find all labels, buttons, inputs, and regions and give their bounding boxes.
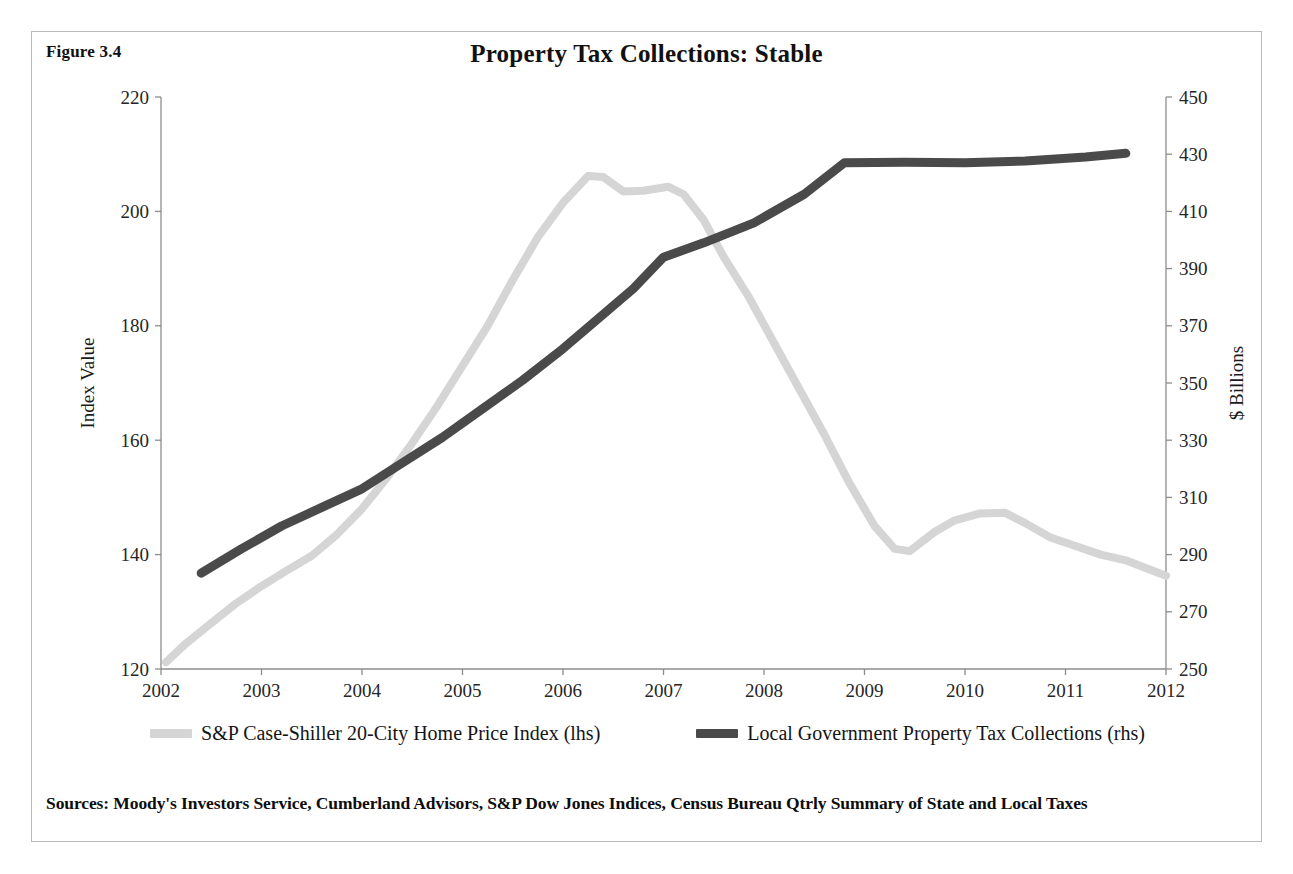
svg-text:2007: 2007 xyxy=(645,680,683,701)
svg-text:$ Billions: $ Billions xyxy=(1226,346,1247,420)
svg-text:310: 310 xyxy=(1179,487,1208,508)
svg-text:2004: 2004 xyxy=(343,680,382,701)
svg-text:2011: 2011 xyxy=(1047,680,1084,701)
chart-legend: S&P Case-Shiller 20-City Home Price Inde… xyxy=(32,722,1263,745)
svg-text:2010: 2010 xyxy=(946,680,984,701)
series-line-case-shiller xyxy=(166,176,1166,662)
legend-label-property-tax: Local Government Property Tax Collection… xyxy=(747,722,1145,745)
axis-titles: Index Value$ Billions xyxy=(77,338,1247,429)
svg-text:450: 450 xyxy=(1179,87,1208,108)
axis-lines xyxy=(161,97,1166,669)
svg-text:200: 200 xyxy=(121,201,150,222)
svg-text:120: 120 xyxy=(121,659,150,680)
svg-text:350: 350 xyxy=(1179,373,1208,394)
svg-text:Index Value: Index Value xyxy=(77,338,98,429)
svg-text:140: 140 xyxy=(121,544,150,565)
line-chart-svg: 120140160180200220 250270290310330350370… xyxy=(32,32,1263,732)
svg-text:2008: 2008 xyxy=(745,680,783,701)
left-axis-ticks: 120140160180200220 xyxy=(121,87,162,680)
svg-text:2003: 2003 xyxy=(243,680,281,701)
legend-item[interactable]: S&P Case-Shiller 20-City Home Price Inde… xyxy=(150,722,600,745)
bottom-axis-ticks: 2002200320042005200620072008200920102011… xyxy=(142,669,1185,701)
svg-text:180: 180 xyxy=(121,315,150,336)
svg-text:160: 160 xyxy=(121,430,150,451)
svg-text:290: 290 xyxy=(1179,544,1208,565)
sources-note: Sources: Moody's Investors Service, Cumb… xyxy=(46,793,1249,814)
svg-text:220: 220 xyxy=(121,87,150,108)
legend-item[interactable]: Local Government Property Tax Collection… xyxy=(696,722,1145,745)
svg-text:2005: 2005 xyxy=(444,680,482,701)
legend-swatch-case-shiller xyxy=(150,729,192,738)
svg-text:330: 330 xyxy=(1179,430,1208,451)
svg-text:2009: 2009 xyxy=(846,680,884,701)
svg-text:250: 250 xyxy=(1179,659,1208,680)
legend-label-case-shiller: S&P Case-Shiller 20-City Home Price Inde… xyxy=(201,722,600,745)
svg-text:2006: 2006 xyxy=(544,680,582,701)
svg-text:2002: 2002 xyxy=(142,680,180,701)
series-paths xyxy=(166,153,1166,662)
legend-swatch-property-tax xyxy=(696,729,738,738)
figure-frame: Figure 3.4 Property Tax Collections: Sta… xyxy=(31,31,1262,842)
svg-text:430: 430 xyxy=(1179,144,1208,165)
svg-text:270: 270 xyxy=(1179,601,1208,622)
svg-text:390: 390 xyxy=(1179,258,1208,279)
svg-text:2012: 2012 xyxy=(1147,680,1185,701)
svg-text:370: 370 xyxy=(1179,315,1208,336)
right-axis-ticks: 250270290310330350370390410430450 xyxy=(1166,87,1208,680)
svg-text:410: 410 xyxy=(1179,201,1208,222)
